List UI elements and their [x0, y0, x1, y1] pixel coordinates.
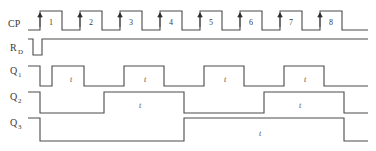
- clock-pulse-number-7: 7: [289, 18, 293, 27]
- clock-rising-edge-arrow-4: [158, 13, 162, 27]
- clock-pulse-number-5: 5: [209, 18, 213, 27]
- interval-annotation-t-3: t: [224, 75, 227, 84]
- signal-label-cp: CP: [8, 18, 21, 29]
- signal-label-q1-sub: 1: [18, 71, 22, 79]
- signal-label-q2-base: Q: [10, 91, 18, 102]
- clock-pulse-number-1: 1: [49, 18, 53, 27]
- signal-label-q1: Q 1: [10, 65, 22, 79]
- interval-annotation-t-1: t: [70, 75, 73, 84]
- signal-label-q3: Q 3: [10, 117, 22, 131]
- clock-rising-edge-arrow-5: [198, 13, 202, 27]
- interval-annotations: ttttttt: [70, 75, 307, 138]
- clock-rising-edge-arrow-8: [318, 13, 322, 27]
- waveform-cp: [28, 11, 368, 30]
- signal-label-q3-base: Q: [10, 117, 18, 128]
- interval-annotation-t-4: t: [304, 75, 307, 84]
- clock-rising-edge-arrow-2: [78, 13, 82, 27]
- waveform-q1: [28, 66, 368, 86]
- clock-pulse-number-4: 4: [169, 18, 173, 27]
- clock-pulse-number-3: 3: [129, 18, 133, 27]
- timing-diagram-screenshot: CP R D Q 1 Q 2 Q 3 12345678 ttttttt: [0, 0, 376, 151]
- waveform-rd: [28, 39, 368, 55]
- interval-annotation-t-5: t: [139, 101, 142, 110]
- signal-label-rd-base: R: [10, 42, 17, 53]
- clock-rising-edge-arrow-3: [118, 13, 122, 27]
- signal-label-q2: Q 2: [10, 91, 22, 105]
- signal-label-q2-sub: 2: [18, 97, 22, 105]
- clock-pulse-number-2: 2: [89, 18, 93, 27]
- signal-label-cp-base: CP: [8, 18, 21, 29]
- clock-rising-edge-arrow-7: [278, 13, 282, 27]
- clock-rising-edge-arrow-6: [238, 13, 242, 27]
- interval-annotation-t-6: t: [299, 101, 302, 110]
- interval-annotation-t-7: t: [259, 129, 262, 138]
- signal-label-q1-base: Q: [10, 65, 18, 76]
- clock-pulse-number-6: 6: [249, 18, 253, 27]
- waveform-q2: [28, 92, 368, 113]
- clock-rising-edge-arrow-1: [38, 13, 42, 27]
- clock-edge-markers: 12345678: [38, 13, 333, 27]
- signal-label-rd-sub: D: [18, 48, 23, 56]
- clock-pulse-number-8: 8: [329, 18, 333, 27]
- signal-label-rd: R D: [10, 42, 23, 56]
- waveform-q3: [28, 118, 368, 141]
- interval-annotation-t-2: t: [144, 75, 147, 84]
- signal-label-q3-sub: 3: [18, 123, 22, 131]
- timing-diagram-canvas: CP R D Q 1 Q 2 Q 3 12345678 ttttttt: [0, 0, 376, 151]
